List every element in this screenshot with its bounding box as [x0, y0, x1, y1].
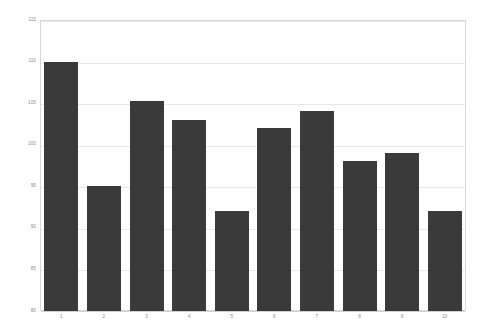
x-tick-label: 1: [40, 315, 83, 320]
bar: [385, 153, 419, 311]
y-tick-label: 110: [2, 59, 36, 64]
x-tick-label: 2: [83, 315, 126, 320]
bars-layer: [40, 20, 466, 311]
x-tick-label: 4: [168, 315, 211, 320]
x-tick-label: 6: [253, 315, 296, 320]
gridline-80: [41, 311, 465, 312]
bar: [172, 120, 206, 311]
bar: [87, 186, 121, 311]
bar: [428, 211, 462, 311]
y-tick-label: 115: [2, 18, 36, 23]
y-tick-label: 85: [2, 267, 36, 272]
y-tick-label: 80: [2, 309, 36, 314]
bar-chart: 80859095100105110115 12345678910: [0, 0, 488, 336]
x-tick-label: 10: [423, 315, 466, 320]
x-tick-label: 9: [381, 315, 424, 320]
y-tick-label: 100: [2, 142, 36, 147]
bar: [257, 128, 291, 311]
bar: [343, 161, 377, 311]
x-tick-label: 7: [296, 315, 339, 320]
x-tick-label: 5: [210, 315, 253, 320]
bar: [130, 101, 164, 311]
bar: [215, 211, 249, 311]
x-tick-label: 3: [125, 315, 168, 320]
y-tick-label: 95: [2, 184, 36, 189]
x-axis: 12345678910: [40, 313, 466, 329]
bar: [300, 111, 334, 311]
y-tick-label: 105: [2, 101, 36, 106]
x-tick-label: 8: [338, 315, 381, 320]
y-tick-label: 90: [2, 225, 36, 230]
bar: [44, 62, 78, 311]
